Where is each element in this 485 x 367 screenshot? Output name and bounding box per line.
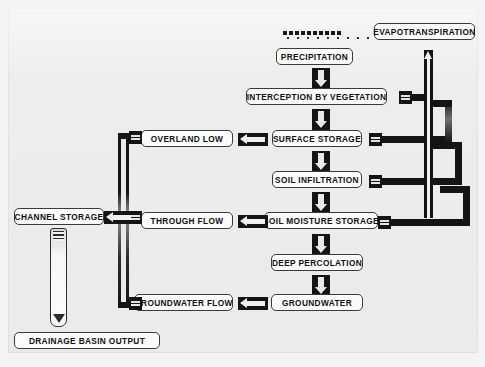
evapotranspiration-pipe-icon [424,50,433,218]
arrow-left-icon-groundwater-to-gwflow [238,297,268,310]
node-groundwater[interactable]: GROUNDWATER [271,294,363,311]
node-interception-by-vegetation[interactable]: INTERCEPTION BY VEGETATION [246,88,387,105]
arrow-down-icon-surface-to-infiltration [312,151,330,173]
arrow-left-icon-surface-to-overland [238,133,268,146]
return-pipe-infiltration-stub [369,175,382,188]
node-precipitation[interactable]: PRECIPITATION [276,48,353,65]
arrow-down-icon-outlet [53,314,65,323]
collector-stub-groundwater [129,297,142,310]
return-pipe-surface-stub [369,133,382,146]
return-pipe-infiltration-top [432,142,462,149]
arrow-down-icon-interception-to-surface [312,109,330,131]
node-drainage-basin-output[interactable]: DRAINAGE BASIN OUTPUT [14,332,160,349]
rain-squares-row [283,31,372,35]
node-deep-percolation[interactable]: DEEP PERCOLATION [271,254,363,271]
arrow-down-icon-precip-to-interception [312,68,330,90]
node-soil-infiltration[interactable]: SOIL INFILTRATION [272,171,362,188]
node-through-flow[interactable]: THROUGH FLOW [141,212,233,229]
return-pipe-infiltration-h [374,178,462,185]
node-soil-moisture-storage[interactable]: SOIL MOISTURE STORAGE [264,212,378,229]
node-surface-storage[interactable]: SURFACE STORAGE [272,130,362,147]
collector-stub-overland [129,131,142,144]
return-pipe-soilmoisture-stub [378,216,391,229]
diagram-canvas: PRECIPITATION INTERCEPTION BY VEGETATION… [0,0,485,367]
outlet-tube-icon [50,228,67,327]
arrow-down-icon-soilmoisture-to-percolation [312,234,330,256]
arrow-left-icon-soilmoisture-to-throughflow [238,215,268,228]
node-channel-storage[interactable]: CHANNEL STORAGE [14,208,104,225]
return-pipe-soilmoisture-top [440,186,470,193]
arrow-down-icon-infiltration-to-soilmoisture [312,192,330,214]
rain-icon [283,31,372,39]
node-groundwater-flow[interactable]: GROUNDWATER FLOW [134,294,233,311]
return-pipe-interception-stub [399,91,412,104]
node-overland-flow[interactable]: OVERLAND LOW [141,130,233,147]
outlet-tube-hatch [53,231,64,241]
node-evapotranspiration[interactable]: EVAPOTRANSPIRATION [374,23,475,40]
return-pipe-soilmoisture-h [382,219,470,226]
rain-dots-row [284,37,372,39]
arrow-left-icon-to-channel-storage [104,211,130,224]
